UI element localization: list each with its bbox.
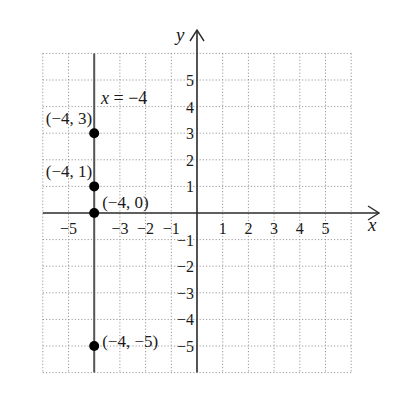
y-tick-label: 2 [186,152,194,169]
y-tick-label: −2 [177,258,194,275]
y-tick-label: 4 [186,99,194,116]
y-tick-label: −5 [177,338,194,355]
x-tick-label: −2 [137,220,154,237]
x-tick-label: −5 [60,220,77,237]
coordinate-graph: −5−3−2−11234554321−1−2−3−4−5 (−4, 3)(−4,… [0,0,401,396]
y-axis-label: y [174,24,185,45]
x-tick-label: 3 [270,220,278,237]
x-tick-label: −3 [111,220,128,237]
point-label: (−4, 1) [46,162,92,181]
data-point [89,128,99,138]
x-tick-label: 1 [219,220,227,237]
y-tick-label: −4 [177,311,194,328]
x-tick-label: 2 [244,220,252,237]
y-tick-label: 3 [186,125,194,142]
x-tick-label: 5 [322,220,330,237]
y-tick-label: −3 [177,285,194,302]
point-label: (−4, 3) [46,109,92,128]
data-point [89,208,99,218]
point-label: (−4, 0) [102,193,148,212]
line-equation-label: x = −4 [100,88,147,108]
point-label: (−4, −5) [102,332,158,351]
y-tick-label: 1 [186,178,194,195]
data-point [89,341,99,351]
y-tick-label: 5 [186,72,194,89]
data-point [89,181,99,191]
y-tick-label: −1 [177,232,194,249]
x-axis-label: x [367,214,377,235]
x-tick-label: 4 [296,220,304,237]
